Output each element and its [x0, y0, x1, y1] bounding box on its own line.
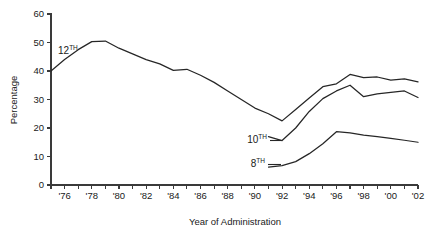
x-axis-tick-label: '96 — [330, 190, 342, 201]
series-lines-group — [51, 41, 418, 167]
series-label-number: 12 — [58, 45, 70, 56]
series-label-text: 10TH — [247, 133, 267, 145]
x-axis-tick-label: '82 — [140, 190, 152, 201]
x-axis-tick-label: '84 — [167, 190, 179, 201]
y-axis-ticks — [47, 14, 51, 185]
x-axis-tick-labels: '76'78'80'82'84'86'88'90'92'94'96'98'00'… — [58, 190, 424, 201]
x-axis-tick-label: '94 — [303, 190, 315, 201]
series-label-8th: 8TH — [251, 157, 281, 169]
x-axis-title: Year of Administration — [189, 216, 281, 227]
chart-container: 0102030405060 '76'78'80'82'84'86'88'90'9… — [0, 0, 431, 240]
series-label-12th: 12TH — [58, 44, 78, 56]
y-axis-tick-label: 60 — [33, 8, 44, 19]
series-labels-group: 12TH10TH8TH — [58, 44, 281, 169]
y-axis-tick-label: 30 — [33, 94, 44, 105]
series-label-text: 8TH — [251, 157, 266, 169]
x-axis-tick-label: '02 — [412, 190, 424, 201]
series-label-suffix: TH — [69, 44, 78, 51]
series-label-suffix: TH — [256, 157, 265, 164]
y-axis-tick-label: 0 — [39, 179, 44, 190]
y-axis-tick-label: 50 — [33, 37, 44, 48]
x-axis-tick-label: '86 — [194, 190, 206, 201]
x-axis-tick-label: '98 — [357, 190, 369, 201]
series-line-8th — [268, 132, 418, 167]
series-label-suffix: TH — [258, 133, 267, 140]
x-axis-tick-label: '80 — [113, 190, 125, 201]
series-label-text: 12TH — [58, 44, 78, 56]
x-axis-tick-label: '76 — [58, 190, 70, 201]
axes-group — [51, 13, 418, 185]
y-axis-tick-label: 10 — [33, 151, 44, 162]
y-axis-title: Percentage — [8, 76, 19, 125]
y-axis-tick-labels: 0102030405060 — [33, 8, 44, 190]
series-label-number: 10 — [247, 134, 259, 145]
x-axis-tick-label: '92 — [276, 190, 288, 201]
series-line-12th — [51, 41, 418, 121]
x-axis-tick-label: '78 — [86, 190, 98, 201]
y-axis-tick-label: 40 — [33, 65, 44, 76]
y-axis-tick-label: 20 — [33, 122, 44, 133]
x-axis-ticks — [51, 185, 418, 189]
x-axis-tick-label: '90 — [249, 190, 261, 201]
x-axis-tick-label: '88 — [222, 190, 234, 201]
x-axis-tick-label: '00 — [385, 190, 397, 201]
line-chart: 0102030405060 '76'78'80'82'84'86'88'90'9… — [0, 0, 431, 240]
